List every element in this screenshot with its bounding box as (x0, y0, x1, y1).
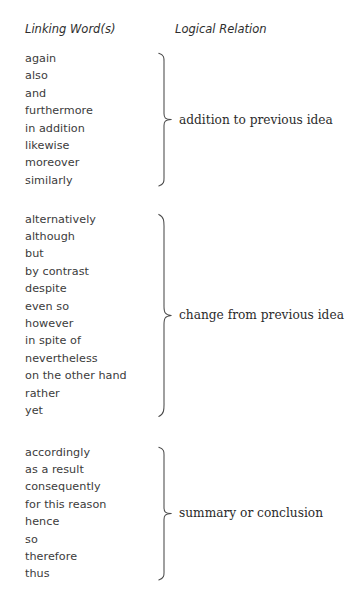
word-item: yet (25, 402, 155, 419)
column-header-linking-words: Linking Word(s) (25, 22, 115, 36)
word-item: moreover (25, 154, 155, 171)
word-item: for this reason (25, 496, 155, 513)
word-item: rather (25, 385, 155, 402)
word-item: however (25, 315, 155, 332)
logical-relation-label: addition to previous idea (179, 112, 333, 127)
word-list: againalsoandfurthermorein additionlikewi… (25, 50, 155, 189)
curly-brace-icon (156, 53, 176, 186)
word-item: similarly (25, 172, 155, 189)
word-item: despite (25, 280, 155, 297)
word-item: thus (25, 565, 155, 582)
word-list: alternativelyalthoughbutby contrastdespi… (25, 211, 155, 420)
word-item: on the other hand (25, 367, 155, 384)
word-list: accordinglyas a resultconsequentlyfor th… (25, 444, 155, 583)
word-item: nevertheless (25, 350, 155, 367)
word-item: as a result (25, 461, 155, 478)
column-header-logical-relation: Logical Relation (175, 22, 267, 36)
linking-group: againalsoandfurthermorein additionlikewi… (0, 50, 357, 189)
word-item: likewise (25, 137, 155, 154)
linking-group: accordinglyas a resultconsequentlyfor th… (0, 444, 357, 583)
word-item: by contrast (25, 263, 155, 280)
curly-brace-icon (156, 447, 176, 580)
word-item: consequently (25, 478, 155, 495)
word-item: alternatively (25, 211, 155, 228)
linking-group: alternativelyalthoughbutby contrastdespi… (0, 211, 357, 420)
word-item: in addition (25, 120, 155, 137)
word-item: therefore (25, 548, 155, 565)
column-header-row: Linking Word(s) Logical Relation (0, 22, 357, 40)
word-item: even so (25, 298, 155, 315)
word-item: but (25, 245, 155, 262)
logical-relation-label: change from previous idea (179, 307, 344, 322)
curly-brace-icon (156, 214, 176, 417)
word-item: so (25, 531, 155, 548)
word-item: accordingly (25, 444, 155, 461)
logical-relation-label: summary or conclusion (179, 506, 323, 521)
word-item: again (25, 50, 155, 67)
word-item: also (25, 67, 155, 84)
word-item: hence (25, 513, 155, 530)
word-item: in spite of (25, 332, 155, 349)
word-item: furthermore (25, 102, 155, 119)
linking-words-table: Linking Word(s) Logical Relation againal… (0, 0, 357, 603)
word-item: although (25, 228, 155, 245)
word-item: and (25, 85, 155, 102)
